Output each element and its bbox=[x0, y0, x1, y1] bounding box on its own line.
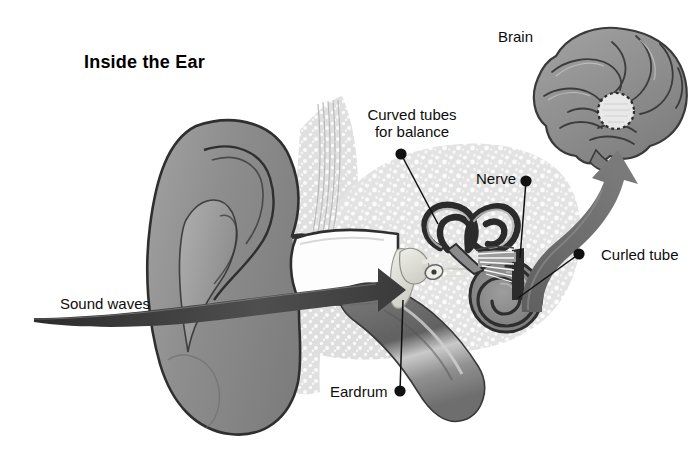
label-brain: Brain bbox=[498, 28, 533, 45]
label-curled-tube: Curled tube bbox=[601, 246, 679, 263]
page-title: Inside the Ear bbox=[84, 52, 205, 73]
dot-nerve bbox=[520, 175, 531, 186]
dot-curled-tube bbox=[573, 248, 584, 259]
label-curved-tubes-for-balance: Curved tubesfor balance bbox=[357, 106, 467, 140]
dot-eardrum bbox=[394, 385, 405, 396]
label-curved-tubes-line1: Curved tubes bbox=[367, 106, 456, 123]
dot-curved-tubes bbox=[395, 148, 406, 159]
label-nerve: Nerve bbox=[476, 170, 516, 187]
brain-organ bbox=[534, 28, 687, 172]
label-eardrum: Eardrum bbox=[330, 383, 388, 400]
label-curved-tubes-line2: for balance bbox=[375, 123, 449, 140]
label-sound-waves: Sound waves bbox=[60, 295, 150, 312]
diagram-canvas: Inside the Ear Brain Curved tubesfor bal… bbox=[0, 0, 694, 470]
